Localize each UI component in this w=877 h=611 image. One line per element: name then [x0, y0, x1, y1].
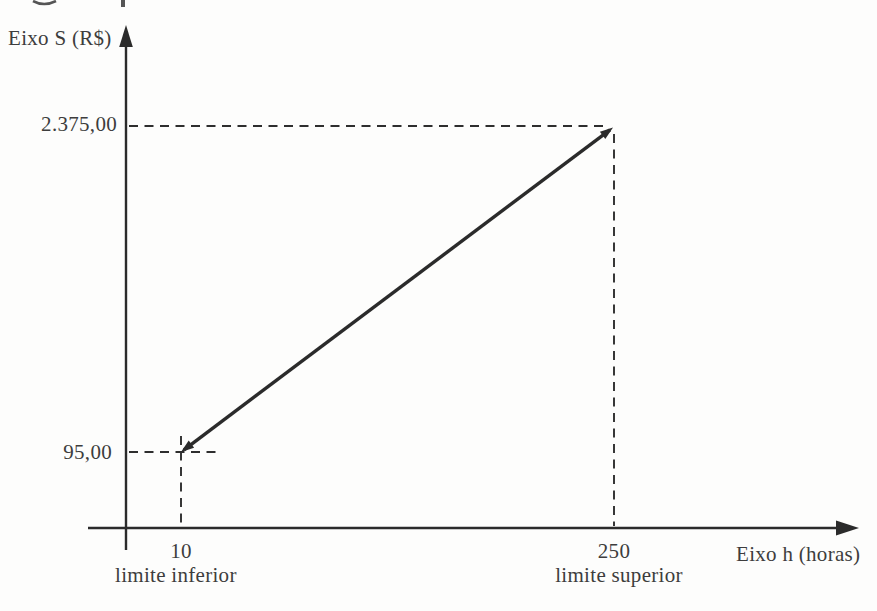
cropped-text-fragment — [33, 1, 56, 4]
y-axis-title: Eixo S (R$) — [8, 27, 112, 49]
cropped-text-fragment — [121, 0, 125, 7]
x-lower-caption: limite inferior — [115, 564, 235, 586]
y-tick-label-upper: 2.375,00 — [24, 113, 117, 135]
x-axis-arrowhead — [836, 521, 859, 536]
s-vs-h-line-segment — [184, 130, 610, 450]
y-tick-label-lower: 95,00 — [24, 441, 112, 463]
y-axis-arrowhead — [119, 25, 133, 47]
x-tick-label-upper: 250 — [584, 540, 644, 562]
chart-drawing — [0, 0, 877, 611]
x-tick-label-lower: 10 — [151, 540, 211, 562]
x-axis-title: Eixo h (horas) — [736, 543, 860, 565]
line-chart-figure: Eixo S (R$) 2.375,00 95,00 10 limite inf… — [0, 0, 877, 611]
x-upper-caption: limite superior — [544, 564, 694, 586]
